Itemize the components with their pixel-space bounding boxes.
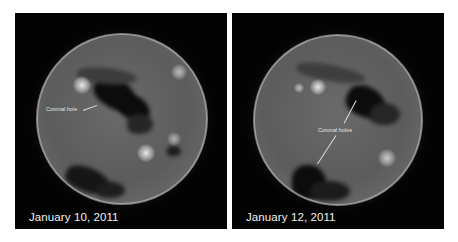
date-label: January 10, 2011 xyxy=(29,211,119,223)
date-label: January 12, 2011 xyxy=(246,211,336,223)
solar-limb xyxy=(36,33,208,205)
sun-image-jan-10: Coronal hole January 10, 2011 xyxy=(15,13,227,229)
sun-image-jan-12: Coronal holes January 12, 2011 xyxy=(232,13,444,229)
coronal-hole-label: Coronal hole xyxy=(46,106,77,112)
solar-limb xyxy=(253,34,423,206)
coronal-holes-label: Coronal holes xyxy=(318,127,352,133)
